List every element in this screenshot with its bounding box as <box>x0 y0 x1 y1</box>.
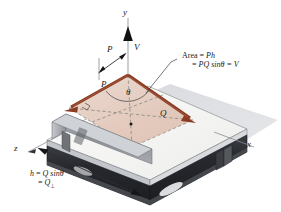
vector-label-p-top: P <box>107 45 113 55</box>
height-annotation: h = Q sinθ = Q⊥ <box>30 170 64 189</box>
height-annotation-line2: = Q⊥ <box>38 179 64 189</box>
parallelogram-center-dot <box>130 123 133 126</box>
area-annotation: Area = Ph = PQ sinθ = V <box>182 52 239 69</box>
angle-label-theta: θ <box>126 88 130 98</box>
vector-v <box>123 26 133 78</box>
p-dimension-arrow <box>98 53 126 80</box>
vector-label-q: Q <box>160 109 167 119</box>
axis-label-y: y <box>123 8 127 18</box>
axis-label-x: x <box>247 140 251 150</box>
vector-label-p-plane: P <box>101 80 107 90</box>
area-annotation-line2: = PQ sinθ = V <box>192 61 239 70</box>
axis-label-z: z <box>14 144 18 154</box>
vector-label-v: V <box>134 43 140 53</box>
